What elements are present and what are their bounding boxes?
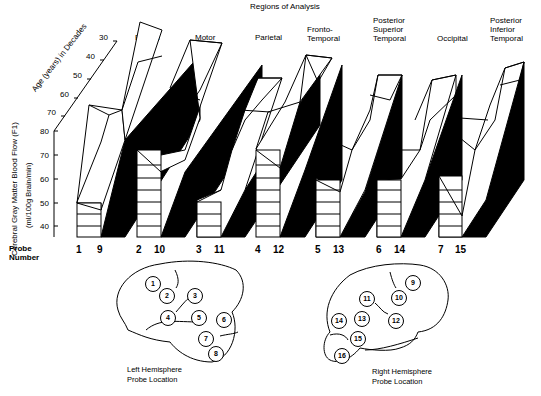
probe-3: 3 (196, 244, 202, 255)
left-probe-3: 3 (187, 288, 203, 304)
probe-11: 11 (214, 244, 225, 255)
probe-13: 13 (333, 244, 344, 255)
probe-number-label: ProbeNumber (9, 244, 39, 262)
left-probe-7: 7 (198, 331, 214, 347)
right-probe-15: 15 (350, 331, 366, 347)
probe-7: 7 (438, 244, 444, 255)
right-probe-10: 10 (391, 290, 407, 306)
probe-15: 15 (455, 244, 466, 255)
probe-6: 6 (376, 244, 382, 255)
probe-10: 10 (154, 244, 165, 255)
probe-5: 5 (315, 244, 321, 255)
probe-12: 12 (273, 244, 284, 255)
probe-14: 14 (394, 244, 405, 255)
right-probe-16: 16 (334, 348, 350, 364)
right-hemisphere-caption: Right HemisphereProbe Location (372, 367, 432, 387)
left-probe-6: 6 (216, 312, 232, 328)
left-probe-8: 8 (208, 346, 224, 362)
left-probe-1: 1 (145, 276, 161, 292)
probe-2: 2 (136, 244, 142, 255)
chart-3d-surfaces (0, 0, 541, 396)
probe-4: 4 (255, 244, 261, 255)
right-probe-14: 14 (331, 313, 347, 329)
left-probe-5: 5 (191, 310, 207, 326)
left-hemisphere-caption: Left HemisphereProbe Location (127, 365, 182, 385)
right-probe-9: 9 (405, 275, 421, 291)
probe-1: 1 (76, 244, 82, 255)
left-probe-2: 2 (159, 288, 175, 304)
right-probe-12: 12 (388, 313, 404, 329)
right-probe-11: 11 (359, 291, 375, 307)
right-probe-13: 13 (354, 311, 370, 327)
probe-9: 9 (97, 244, 103, 255)
left-probe-4: 4 (160, 310, 176, 326)
